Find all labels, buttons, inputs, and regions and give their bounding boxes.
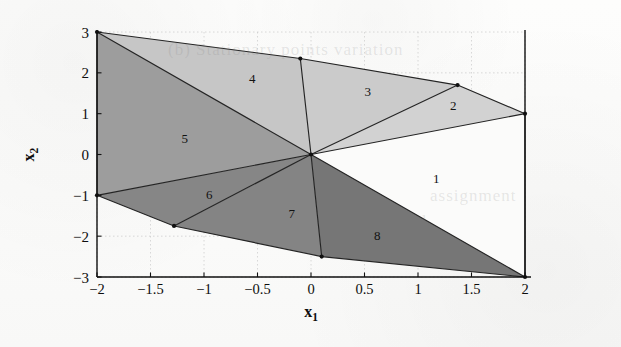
y-tick-label: 0 xyxy=(82,147,90,163)
vertex-marker-O xyxy=(309,152,313,156)
y-tick-label: −1 xyxy=(73,188,89,204)
x-tick-label: −2 xyxy=(89,281,104,297)
vertex-marker-G xyxy=(172,224,176,228)
x-tick-label: 2 xyxy=(521,281,528,297)
region-label-1: 1 xyxy=(433,171,440,186)
x-tick-label: −1 xyxy=(196,281,211,297)
y-tick-label: −2 xyxy=(73,229,89,245)
region-label-4: 4 xyxy=(249,71,256,86)
region-label-6: 6 xyxy=(206,187,213,202)
x-axis-title: x1 xyxy=(304,303,318,323)
region-label-7: 7 xyxy=(288,206,295,221)
region-label-8: 8 xyxy=(374,228,381,243)
y-tick-label: −3 xyxy=(73,270,89,286)
y-tick-label: 3 xyxy=(82,25,90,41)
x-tick-label: 0 xyxy=(307,281,314,297)
x-tick-label: 0.5 xyxy=(355,281,373,297)
x-tick-label: 1.5 xyxy=(462,281,480,297)
vertex-marker-C xyxy=(455,83,459,87)
y-tick-label: 1 xyxy=(82,106,90,122)
x-tick-label: −1.5 xyxy=(137,281,163,297)
y-tick-label: 2 xyxy=(82,65,90,81)
vertex-marker-F xyxy=(320,254,324,258)
x-tick-label: 1 xyxy=(414,281,421,297)
vertex-marker-B xyxy=(298,56,302,60)
y-axis-title: x2 xyxy=(20,147,40,161)
region-label-2: 2 xyxy=(450,98,457,113)
region-label-5: 5 xyxy=(181,131,188,146)
x-tick-label: −0.5 xyxy=(244,281,270,297)
polygon-partition-figure: 12345678−2−1.5−1−0.500.511.52−3−2−10123x… xyxy=(0,0,621,347)
region-label-3: 3 xyxy=(364,84,371,99)
